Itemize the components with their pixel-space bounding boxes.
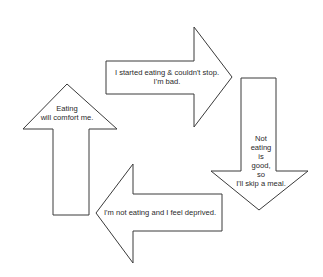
arrow-top-text: I started eating & couldn't stop. I'm ba… <box>106 68 228 86</box>
eating-cycle-diagram: I started eating & couldn't stop. I'm ba… <box>0 0 323 277</box>
arrow-bottom-text: I'm not eating and I feel deprived. <box>96 208 224 217</box>
arrow-right-text: Not eating is good, so I'll skip a meal. <box>221 134 301 188</box>
arrow-left-text: Eating will comfort me. <box>24 104 110 122</box>
